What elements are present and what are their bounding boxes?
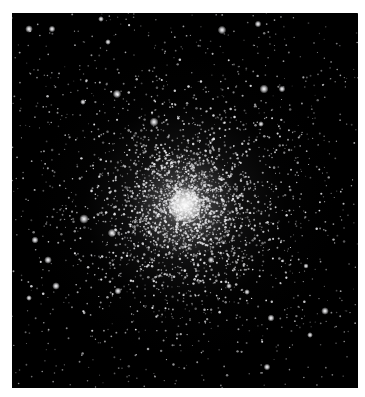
cluster-photo [12,13,358,388]
star-field [12,13,358,388]
page [0,0,365,397]
